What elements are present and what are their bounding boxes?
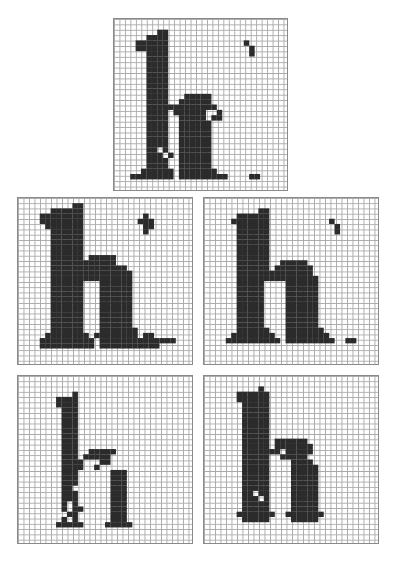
letter-h-bitmap [18, 376, 192, 543]
letter-h-bitmap [114, 19, 287, 190]
glyph-h-bottom-left [17, 375, 193, 544]
letter-h-bitmap [204, 198, 378, 364]
letter-h-bitmap [204, 376, 378, 543]
glyph-h-bottom-right [203, 375, 379, 544]
glyph-h-middle-left [17, 197, 193, 365]
letter-h-bitmap [18, 198, 192, 364]
glyph-h-top [113, 18, 288, 191]
glyph-h-middle-right [203, 197, 379, 365]
